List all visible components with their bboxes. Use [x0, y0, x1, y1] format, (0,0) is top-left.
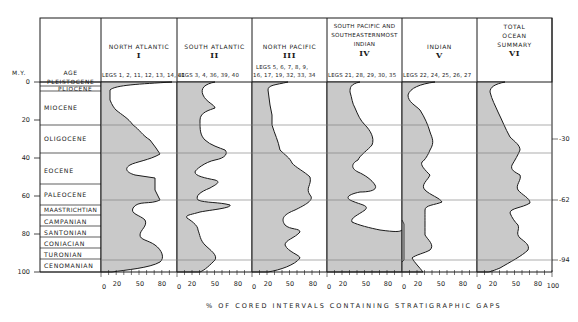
- panel-6-region-line2: OCEAN: [477, 31, 552, 40]
- x-tick: 80: [384, 280, 392, 288]
- age-coniacian: CONIACIAN: [44, 240, 85, 247]
- panel-3-header: NORTH PACIFIC III: [252, 42, 327, 60]
- x-tick: 20: [414, 280, 422, 288]
- panel-3-numeral: III: [252, 51, 327, 60]
- panel-4-region-line1: SOUTH PACIFIC AND: [327, 22, 402, 31]
- x-tick: 50: [286, 280, 294, 288]
- panel-6-region-line1: TOTAL: [477, 22, 552, 31]
- panel-5-header: INDIAN V: [402, 42, 477, 60]
- series-south-atlantic-area: [177, 82, 230, 272]
- panel-1-numeral: I: [101, 51, 177, 60]
- x-tick: 0: [102, 283, 106, 291]
- reference-label-94: -94: [559, 256, 570, 264]
- age-maastrichtian: MAASTRICHTIAN: [44, 207, 97, 213]
- age-miocene: MIOCENE: [44, 104, 78, 111]
- x-tick: 0: [252, 283, 256, 291]
- x-tick: 50: [136, 280, 144, 288]
- panel-3-legs-line1: LEGS 5, 6, 7, 8, 9,: [256, 64, 308, 70]
- age-pliocene: PLIOCENE: [58, 86, 92, 92]
- panel-5-numeral: V: [402, 51, 477, 60]
- age-turonian: TURONIAN: [44, 251, 82, 258]
- y-tick-60: 60: [12, 192, 30, 200]
- x-tick: 50: [512, 280, 520, 288]
- x-axis-title: % OF CORED INTERVALS CONTAINING STRATIGR…: [206, 302, 502, 310]
- y-tick-20: 20: [12, 116, 30, 124]
- x-tick: 0: [477, 283, 481, 291]
- reference-label-62: -62: [559, 196, 570, 204]
- x-tick-end: 100: [547, 282, 559, 290]
- panel-3-legs: 16, 17, 19, 32, 33, 34: [253, 72, 316, 78]
- panel-4-numeral: IV: [327, 49, 402, 58]
- panel-4-header: SOUTH PACIFIC AND SOUTHEASTERNMOST INDIA…: [327, 22, 402, 58]
- x-tick: 80: [158, 280, 166, 288]
- x-tick: 0: [327, 283, 331, 291]
- age-cenomanian: CENOMANIAN: [44, 262, 94, 269]
- series-south-pacific-area: [327, 82, 402, 272]
- x-tick: 80: [459, 280, 467, 288]
- x-tick: 50: [211, 280, 219, 288]
- age-paleocene: PALEOCENE: [44, 191, 87, 198]
- x-tick: 50: [437, 280, 445, 288]
- panel-1-legs: LEGS 1, 2, 11, 12, 13, 14, 41: [102, 72, 185, 78]
- x-tick: 50: [362, 280, 370, 288]
- age-column-header: AGE: [40, 68, 101, 77]
- age-pleistocene: PLEISTOCENE: [47, 79, 94, 85]
- my-axis-header: M.Y.: [4, 68, 34, 77]
- panel-1-header: NORTH ATLANTIC I: [101, 42, 177, 60]
- panel-4-region-line2: SOUTHEASTERNMOST: [327, 31, 402, 40]
- x-tick: 20: [489, 280, 497, 288]
- panel-6-numeral: VI: [477, 49, 552, 58]
- panel-4-legs: LEGS 21, 28, 29, 30, 35: [328, 72, 396, 78]
- x-tick: 20: [339, 280, 347, 288]
- age-eocene: EOCENE: [44, 167, 74, 174]
- x-tick: 20: [188, 280, 196, 288]
- series-north-atlantic-area: [101, 82, 172, 272]
- x-tick: 20: [264, 280, 272, 288]
- x-tick: 80: [309, 280, 317, 288]
- series-total-ocean-area: [477, 82, 530, 272]
- panel-5-legs: LEGS 22, 24, 25, 26, 27: [403, 72, 471, 78]
- y-tick-0: 0: [12, 78, 30, 86]
- panel-2-legs: LEGS 3, 4, 36, 39, 40: [178, 72, 239, 78]
- age-santonian: SANTONIAN: [44, 229, 87, 236]
- y-tick-40: 40: [12, 154, 30, 162]
- reference-label-30: -30: [559, 135, 570, 143]
- panel-2-numeral: II: [177, 51, 252, 60]
- x-tick: 0: [177, 283, 181, 291]
- age-campanian: CAMPANIAN: [44, 218, 87, 225]
- x-tick: 80: [234, 280, 242, 288]
- series-north-pacific-area: [252, 82, 311, 272]
- series-indian-area: [402, 82, 442, 272]
- x-tick: 80: [534, 280, 542, 288]
- panel-6-header: TOTAL OCEAN SUMMARY VI: [477, 22, 552, 58]
- panel-2-header: SOUTH ATLANTIC II: [177, 42, 252, 60]
- x-tick: 20: [113, 280, 121, 288]
- y-tick-80: 80: [12, 230, 30, 238]
- y-tick-100: 100: [12, 268, 30, 276]
- age-oligocene: OLIGOCENE: [44, 135, 87, 142]
- x-tick: 0: [402, 283, 406, 291]
